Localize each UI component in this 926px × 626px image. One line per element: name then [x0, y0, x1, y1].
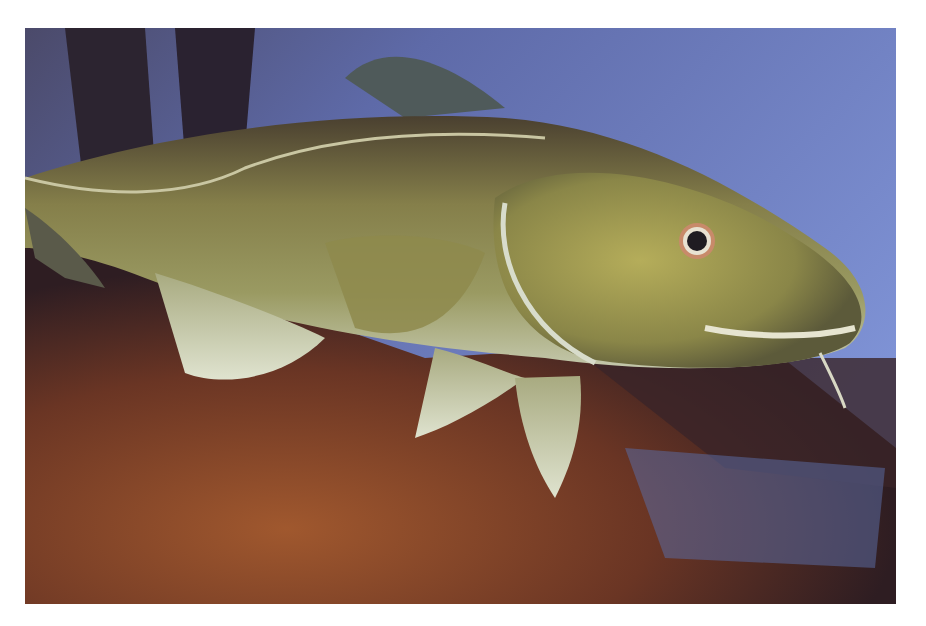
cod-photo: [25, 28, 896, 604]
cod-illustration: [25, 28, 896, 604]
